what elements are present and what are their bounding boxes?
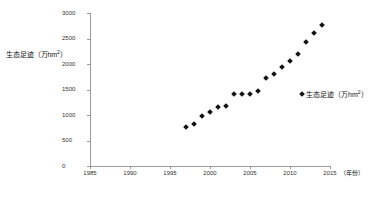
y-axis-tick-label: 3000 (62, 10, 75, 17)
x-axis-tick (290, 166, 291, 169)
y-axis-line (90, 13, 91, 167)
y-axis-tick-label: 2500 (62, 35, 75, 42)
data-point-marker (287, 59, 293, 65)
y-axis-tick (87, 141, 90, 142)
x-axis-tick (90, 166, 91, 169)
y-axis-tick (87, 90, 90, 91)
y-axis-title-tail: ） (60, 51, 67, 58)
data-point-marker (223, 103, 229, 109)
data-point-marker (279, 64, 285, 70)
ecological-footprint-scatter-chart: 生态足迹（万hm2） 050010001500200025003000 1985… (0, 0, 382, 197)
x-axis-tick (250, 166, 251, 169)
legend-diamond-icon (299, 91, 305, 97)
data-point-marker (311, 31, 317, 37)
data-point-marker (319, 22, 325, 28)
y-axis-tick (87, 39, 90, 40)
x-axis-tick (210, 166, 211, 169)
legend-label-main: 生态足迹（万hm (306, 91, 358, 98)
y-axis-tick (87, 13, 90, 14)
x-axis-tick-label: 1995 (163, 170, 176, 177)
y-axis-title-main: 生态足迹（万hm (6, 51, 57, 58)
y-axis-tick-label: 1500 (62, 86, 75, 93)
x-axis-tick (330, 166, 331, 169)
legend-entry-label: 生态足迹（万hm2） (306, 88, 368, 99)
data-point-marker (271, 71, 277, 77)
y-axis-tick (87, 115, 90, 116)
data-point-marker (247, 91, 253, 97)
x-axis-tick-label: 1990 (123, 170, 136, 177)
x-axis-tick (130, 166, 131, 169)
x-axis-tick-label: 2015 (323, 170, 336, 177)
x-axis-tick-label: 2005 (243, 170, 256, 177)
data-point-marker (303, 39, 309, 45)
data-point-marker (263, 75, 269, 81)
data-point-marker (183, 124, 189, 130)
y-axis-tick-label: 2000 (62, 61, 75, 68)
x-axis-tick-label: 2000 (203, 170, 216, 177)
x-axis-tick (170, 166, 171, 169)
x-axis-tick-label: 1985 (83, 170, 96, 177)
chart-legend: 生态足迹（万hm2） (300, 88, 368, 99)
data-point-marker (239, 91, 245, 97)
y-axis-tick-label: 1000 (62, 112, 75, 119)
y-axis-title: 生态足迹（万hm2） (6, 47, 80, 60)
data-point-marker (255, 88, 261, 94)
data-point-marker (215, 105, 221, 111)
legend-label-tail: ） (361, 91, 368, 98)
data-point-marker (199, 113, 205, 119)
data-point-marker (231, 91, 237, 97)
data-point-marker (295, 51, 301, 57)
x-axis-tick-label: 2010 (283, 170, 296, 177)
y-axis-tick-label: 500 (62, 137, 72, 144)
x-axis-unit-note: （年份） (340, 170, 364, 177)
y-axis-tick-label: 0 (62, 163, 65, 170)
data-point-marker (191, 121, 197, 127)
data-point-marker (207, 109, 213, 115)
y-axis-tick (87, 64, 90, 65)
